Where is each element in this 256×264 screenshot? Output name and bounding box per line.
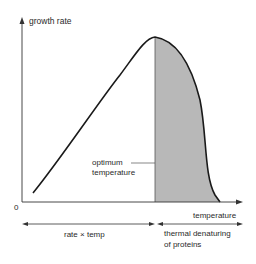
range-label-rate-temp: rate × temp (64, 230, 105, 240)
range-label-denaturing-line1: thermal denaturing (164, 229, 231, 239)
y-axis-arrow-icon (20, 17, 25, 24)
arrowhead-right-icon (149, 222, 155, 226)
x-axis-label: temperature (193, 211, 236, 221)
optimum-label-line2: temperature (92, 168, 135, 178)
range-label-denaturing-line2: of proteins (164, 240, 201, 250)
arrowhead-right-icon (237, 222, 243, 226)
optimum-label-line1: optimum (92, 158, 123, 168)
origin-label: 0 (14, 203, 18, 213)
denaturing-shaded-region (155, 37, 220, 202)
arrowhead-left-icon (22, 222, 28, 226)
growth-rate-diagram (0, 0, 256, 264)
x-axis-arrow-icon (236, 200, 243, 205)
y-axis-label: growth rate (29, 16, 72, 26)
arrowhead-left-icon (157, 222, 163, 226)
